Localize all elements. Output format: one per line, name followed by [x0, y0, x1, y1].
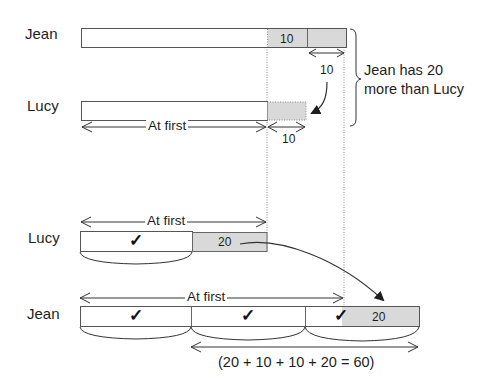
at-first-label-jean: At first [185, 289, 227, 304]
lucy-extra-value: 20 [218, 235, 231, 249]
brace-note-line-2: more than Lucy [364, 80, 464, 99]
total-equation: (20 + 10 + 10 + 20 = 60) [218, 354, 374, 370]
lucy-gain-value: 10 [282, 132, 295, 146]
bar-model-drawing [0, 0, 484, 389]
at-first-label-top: At first [146, 118, 188, 133]
lucy-label-bottom: Lucy [28, 229, 60, 246]
lucy-label-top: Lucy [27, 97, 59, 114]
at-first-arrow-top [82, 122, 305, 132]
lucy-unit-brace [80, 252, 192, 264]
right-brace [350, 29, 361, 126]
jean-transfer-arrow [309, 49, 344, 57]
brace-note: Jean has 20 more than Lucy [364, 61, 464, 99]
lucy-bar-bottom [81, 232, 268, 252]
jean-extra-value: 20 [372, 310, 385, 324]
jean-segment-value: 10 [280, 32, 293, 46]
transfer-value: 10 [320, 63, 333, 77]
check-icon: ✓ [129, 230, 143, 251]
jean-label-top: Jean [25, 25, 58, 42]
at-first-label-lucy: At first [145, 213, 187, 228]
check-icon: ✓ [334, 305, 348, 326]
brace-note-line-1: Jean has 20 [364, 61, 464, 80]
jean-label-bottom: Jean [27, 305, 60, 322]
check-icon: ✓ [129, 305, 143, 326]
jean-unit-braces [80, 327, 419, 341]
transfer-curve-arrow [312, 82, 327, 113]
check-icon: ✓ [241, 305, 255, 326]
total-arrow [191, 342, 418, 352]
jean-bar-top [82, 29, 347, 48]
lucy-bar-top [82, 102, 307, 121]
